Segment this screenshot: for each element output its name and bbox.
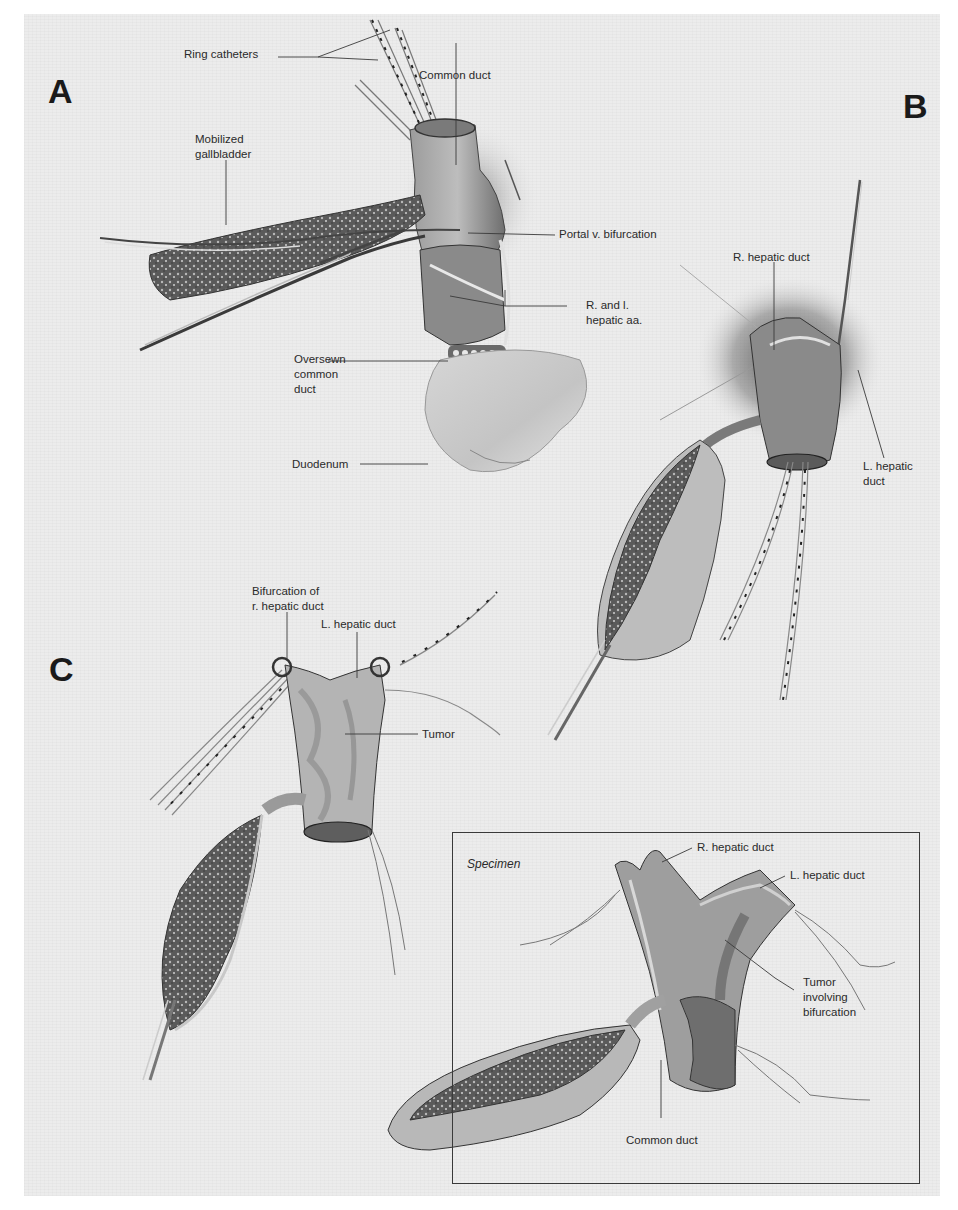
label-tumor-specimen-line1: Tumor: [803, 975, 836, 989]
panel-letter-b: B: [903, 89, 928, 123]
label-r-hepatic-duct-b: R. hepatic duct: [733, 250, 810, 264]
label-hepatic-aa-line2: hepatic aa.: [586, 313, 642, 327]
label-bifurcation-line2: r. hepatic duct: [252, 599, 324, 613]
label-tumor-c: Tumor: [422, 727, 455, 741]
label-common-duct-a: Common duct: [419, 68, 491, 82]
label-hepatic-aa-line1: R. and l.: [586, 298, 629, 312]
label-l-hepatic-duct-b-line2: duct: [863, 474, 885, 488]
label-tumor-specimen-line3: bifurcation: [803, 1005, 856, 1019]
label-oversewn-line3: duct: [294, 382, 316, 396]
label-oversewn-line1: Oversewn: [294, 352, 346, 366]
label-oversewn-line2: common: [294, 367, 338, 381]
label-common-duct-specimen: Common duct: [626, 1133, 698, 1147]
label-duodenum: Duodenum: [292, 457, 348, 471]
panel-b-illustration: [548, 180, 885, 740]
panel-letter-a: A: [48, 74, 73, 108]
label-tumor-specimen-line2: involving: [803, 990, 848, 1004]
label-r-hepatic-duct-specimen: R. hepatic duct: [697, 840, 774, 854]
label-ring-catheters: Ring catheters: [184, 47, 258, 61]
panel-a-illustration: [100, 20, 587, 472]
label-mobilized-gallbladder-line1: Mobilized: [195, 132, 244, 146]
label-portal-v-bifurcation: Portal v. bifurcation: [559, 227, 657, 241]
label-l-hepatic-duct-b-line1: L. hepatic: [863, 459, 913, 473]
label-bifurcation-line1: Bifurcation of: [252, 584, 319, 598]
label-l-hepatic-duct-c: L. hepatic duct: [321, 617, 396, 631]
panel-c-illustration: [143, 592, 500, 1080]
label-l-hepatic-duct-specimen: L. hepatic duct: [790, 868, 865, 882]
label-mobilized-gallbladder-line2: gallbladder: [195, 147, 251, 161]
specimen-title: Specimen: [467, 857, 520, 871]
panel-letter-c: C: [49, 652, 74, 686]
